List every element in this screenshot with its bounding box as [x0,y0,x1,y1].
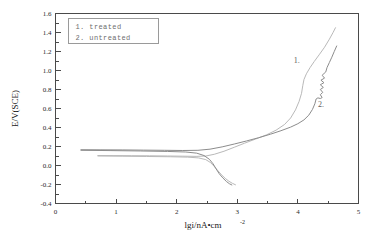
y-axis-title: E/V(SCE) [10,90,20,127]
y-tick-label: 1.2 [43,48,52,56]
y-tick-label: 1.0 [43,67,52,75]
y-tick-label: 0.2 [43,143,52,151]
polarization-curve-figure: -0.4-0.20.00.20.40.60.81.01.21.41.601234… [0,0,371,242]
x-tick-label: 2 [175,208,179,216]
x-tick-label: 0 [54,208,58,216]
curves-layer [81,28,337,185]
curve-marker-label: 2. [318,100,324,109]
y-tick-label: -0.4 [40,200,52,208]
curve-marker-label: 1. [294,56,300,65]
y-tick-label: 0.0 [43,162,52,170]
legend-entry: 1. treated [76,23,122,31]
chart-svg: -0.4-0.20.00.20.40.60.81.01.21.41.601234… [0,0,371,242]
y-tick-label: 0.8 [43,86,52,94]
y-tick-label: 0.4 [43,124,52,132]
legend-entry: 2. untreated [76,34,131,42]
legend: 1. treated2. untreated [69,19,159,44]
y-tick-label: 1.4 [43,29,52,37]
y-tick-label: 0.6 [43,105,52,113]
x-tick-label: 3 [236,208,240,216]
y-tick-label: -0.2 [40,181,52,189]
x-axis-title: lgi/nA•cm [184,220,221,230]
curve-treated-anodic [98,28,336,157]
x-tick-label: 4 [296,208,300,216]
curve-treated-cathodic [98,156,236,185]
x-axis-title-exponent: -2 [240,219,245,225]
x-tick-label: 5 [357,208,361,216]
curve-annotations-layer: 1.2. [294,56,324,109]
x-tick-label: 1 [114,208,118,216]
y-tick-label: 1.6 [43,10,52,18]
